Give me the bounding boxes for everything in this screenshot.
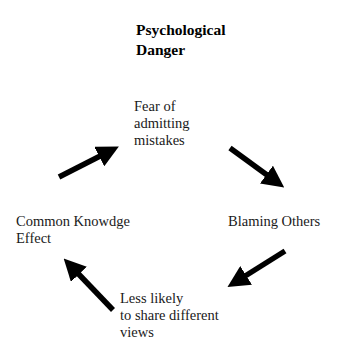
- arrows-layer: [0, 0, 348, 361]
- arrow-icon-fear-to-blaming: [230, 148, 278, 183]
- arrow-icon-less-likely-to-common: [69, 264, 113, 310]
- arrow-icon-blaming-to-less-likely: [234, 251, 285, 283]
- arrow-icon-common-to-fear: [59, 150, 112, 177]
